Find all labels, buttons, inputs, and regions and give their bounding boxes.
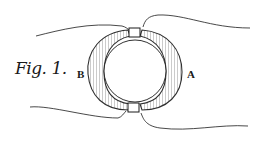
top-junction [129,28,140,37]
label-b: B [77,68,84,80]
label-a: A [187,68,195,80]
inner-ring [104,40,166,102]
figure-label: Fig. 1. [15,58,67,78]
bottom-junction [128,103,139,112]
